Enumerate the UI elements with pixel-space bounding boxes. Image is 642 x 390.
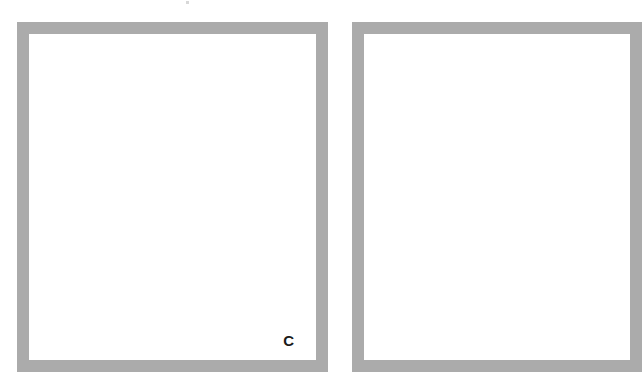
scan-artifact (186, 1, 189, 4)
panel-right-frame (352, 22, 642, 372)
panel-label: C (283, 333, 294, 348)
panel-left-frame: C (17, 22, 328, 372)
